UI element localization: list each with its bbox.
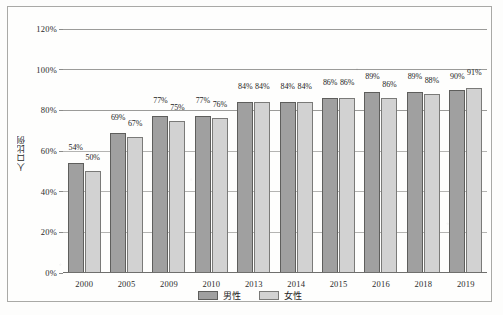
bar-value-label: 91% (462, 68, 486, 77)
bar-female[interactable] (466, 88, 482, 273)
bar-male[interactable] (280, 102, 296, 273)
bar-female[interactable] (254, 102, 270, 273)
legend-item-female[interactable]: 女性 (259, 289, 302, 302)
x-tick-label: 2005 (105, 279, 147, 289)
y-tick-label: 80% (11, 105, 57, 115)
bar-value-label: 84% (250, 82, 274, 91)
bar-female[interactable] (127, 137, 143, 273)
y-tick-label: 100% (11, 65, 57, 75)
y-tick-label: 20% (11, 227, 57, 237)
bar-group: 69%67% (105, 29, 147, 273)
x-tick-label: 2018 (402, 279, 444, 289)
x-tick-label: 2014 (275, 279, 317, 289)
bar-group: 89%88% (402, 29, 444, 273)
bar-group: 54%50% (63, 29, 105, 273)
bar-group: 84%84% (233, 29, 275, 273)
x-tick-label: 2009 (148, 279, 190, 289)
x-tick-label: 2016 (360, 279, 402, 289)
bar-female[interactable] (85, 171, 101, 273)
bar-female[interactable] (424, 94, 440, 273)
bar-group: 86%86% (317, 29, 359, 273)
y-tick-label: 60% (11, 146, 57, 156)
x-tick-label: 2013 (233, 279, 275, 289)
y-tick-label: 120% (11, 24, 57, 34)
bar-value-label: 67% (123, 119, 147, 128)
bar-group: 77%76% (190, 29, 232, 273)
bar-female[interactable] (212, 118, 228, 273)
y-tick-label: 40% (11, 187, 57, 197)
bar-value-label: 86% (377, 80, 401, 89)
x-tick-label: 2010 (190, 279, 232, 289)
bar-female[interactable] (339, 98, 355, 273)
x-tick-label: 2000 (63, 279, 105, 289)
bar-group: 89%86% (360, 29, 402, 273)
bar-male[interactable] (152, 116, 168, 273)
chart-legend: 男性女性 (8, 289, 491, 302)
legend-item-male[interactable]: 男性 (198, 289, 241, 302)
bar-value-label: 75% (165, 103, 189, 112)
bar-male[interactable] (110, 133, 126, 273)
bar-male[interactable] (237, 102, 253, 273)
bar-female[interactable] (381, 98, 397, 273)
bar-value-label: 86% (335, 78, 359, 87)
bar-male[interactable] (364, 92, 380, 273)
legend-swatch-icon (259, 291, 279, 300)
legend-label: 女性 (284, 289, 302, 302)
legend-label: 男性 (223, 289, 241, 302)
x-tick-label: 2015 (317, 279, 359, 289)
plot-area: 0%20%40%60%80%100%120% 54%50%69%67%77%75… (63, 29, 487, 273)
bar-male[interactable] (195, 116, 211, 273)
x-tick-label: 2019 (445, 279, 487, 289)
bar-male[interactable] (449, 90, 465, 273)
bar-group: 90%91% (445, 29, 487, 273)
bar-value-label: 50% (81, 153, 105, 162)
bar-value-label: 84% (293, 82, 317, 91)
bar-group: 77%75% (148, 29, 190, 273)
bar-value-label: 88% (420, 76, 444, 85)
bar-male[interactable] (68, 163, 84, 273)
bar-male[interactable] (407, 92, 423, 273)
x-axis-line (63, 272, 487, 273)
legend-swatch-icon (198, 291, 218, 300)
bar-value-label: 76% (208, 100, 232, 109)
chart-figure: 人口比例 0%20%40%60%80%100%120% 54%50%69%67%… (0, 0, 503, 315)
bar-series-container: 54%50%69%67%77%75%77%76%84%84%84%84%86%8… (63, 29, 487, 273)
bar-female[interactable] (169, 121, 185, 274)
bar-male[interactable] (322, 98, 338, 273)
bar-female[interactable] (297, 102, 313, 273)
bar-group: 84%84% (275, 29, 317, 273)
bar-value-label: 54% (64, 143, 88, 152)
chart-frame: 人口比例 0%20%40%60%80%100%120% 54%50%69%67%… (7, 6, 492, 302)
y-tick-label: 0% (11, 268, 57, 278)
